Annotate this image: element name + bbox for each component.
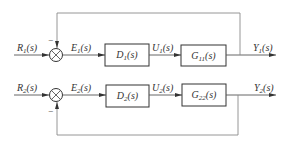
label-u1: U1(s) <box>152 42 174 55</box>
block-diagram: R1(s) − E1(s) D1(s) U1(s) G11(s) Y1(s) R… <box>0 0 289 145</box>
label-y1: Y1(s) <box>253 42 273 55</box>
summing-junction-2 <box>50 89 63 102</box>
feedback-sign-2: − <box>48 106 53 116</box>
label-r2: R2(s) <box>16 82 38 95</box>
label-e1: E1(s) <box>70 42 92 55</box>
label-r1: R1(s) <box>16 42 38 55</box>
label-e2: E2(s) <box>70 82 92 95</box>
loop-2: R2(s) − E2(s) D2(s) U2(s) G22(s) Y2(s) <box>14 82 276 135</box>
feedback-sign-1: − <box>48 35 53 45</box>
label-y2: Y2(s) <box>254 82 274 95</box>
summing-junction-1 <box>50 49 63 62</box>
loop-1: R1(s) − E1(s) D1(s) U1(s) G11(s) Y1(s) <box>14 13 276 66</box>
label-u2: U2(s) <box>152 82 174 95</box>
